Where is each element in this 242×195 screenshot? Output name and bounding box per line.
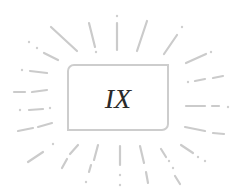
sunburst-illustration: IX xyxy=(0,0,242,195)
roman-numeral-label: IX xyxy=(105,85,131,113)
numeral-frame: IX xyxy=(67,64,169,131)
